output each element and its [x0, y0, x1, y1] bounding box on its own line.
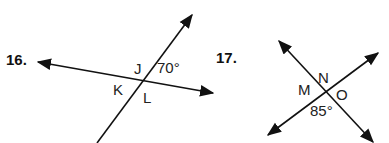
angle-label-16: 70°: [157, 60, 180, 75]
line-diagonal-16: [97, 15, 192, 143]
figures: [0, 0, 389, 143]
label-k: K: [113, 82, 123, 97]
angle-label-17: 85°: [310, 103, 333, 118]
problem-number-17: 17.: [216, 49, 237, 66]
line-horizontal-16: [38, 62, 213, 93]
problem-number-16: 16.: [6, 51, 27, 68]
label-j: J: [134, 61, 142, 76]
label-n: N: [318, 70, 329, 85]
label-l: L: [143, 90, 151, 105]
label-m: M: [298, 82, 311, 97]
line-ascending-17: [268, 53, 378, 135]
label-o: O: [336, 87, 348, 102]
